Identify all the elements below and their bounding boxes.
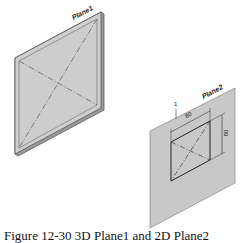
plane2 [150,88,235,228]
plane1 [15,12,104,156]
diagram-canvas [0,0,248,243]
figure-caption: Figure 12-30 3D Plane1 and 2D Plane2 [4,229,248,243]
marker-label: 1 [174,101,177,107]
dimension-height: 80 [223,130,229,137]
